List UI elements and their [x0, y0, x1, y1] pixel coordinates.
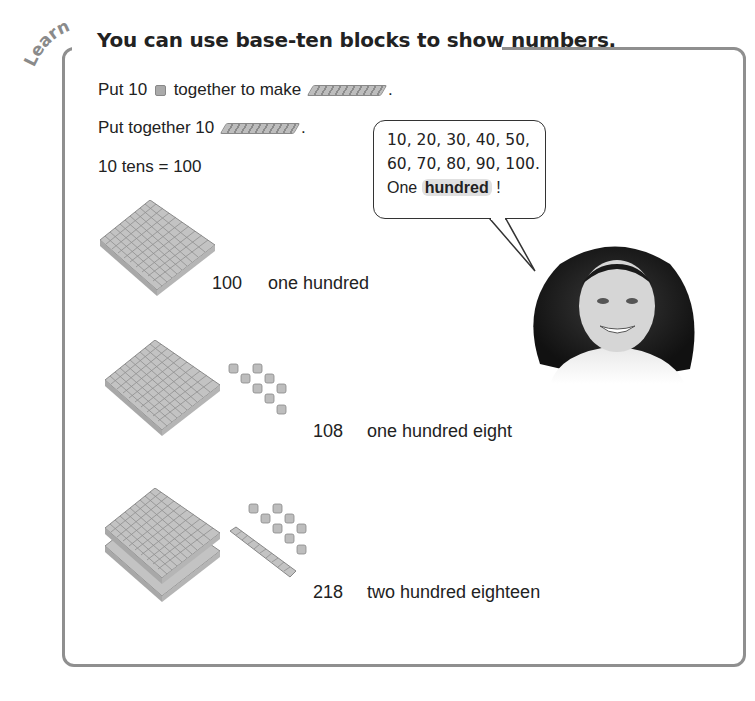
two-hundred-flats-icon	[100, 488, 230, 606]
svg-text:Learn: Learn	[22, 18, 72, 70]
lesson-title: You can use base-ten blocks to show numb…	[97, 28, 616, 52]
bubble-word: !	[496, 179, 500, 196]
example-words: two hundred eighteen	[367, 582, 540, 603]
example-number: 100	[212, 273, 242, 294]
period: .	[301, 118, 306, 137]
hundred-flat-icon	[100, 340, 230, 440]
unit-cube-icon	[155, 85, 166, 96]
example-number: 218	[313, 582, 343, 603]
learn-tag: Learn	[22, 18, 102, 78]
unit-cubes-icon	[225, 360, 300, 420]
line-text: Put 10	[98, 80, 147, 99]
line-text: together to make	[174, 80, 302, 99]
example-words: one hundred eight	[367, 421, 512, 442]
example-words: one hundred	[268, 273, 369, 294]
line-text: Put together 10	[98, 118, 214, 137]
ten-rod-icon	[220, 123, 300, 134]
bubble-text: 10, 20, 30, 40, 50, 60, 70, 80, 90, 100.…	[387, 128, 540, 200]
ten-rod-icon	[307, 85, 387, 96]
bubble-word: One	[387, 179, 417, 196]
bubble-line: 60, 70, 80, 90, 100.	[387, 152, 540, 176]
bubble-line: 10, 20, 30, 40, 50,	[387, 128, 540, 152]
line-tens: Put together 10 .	[98, 118, 306, 138]
bubble-line: One hundred !	[387, 176, 540, 200]
girl-photo	[520, 234, 710, 384]
example-number: 108	[313, 421, 343, 442]
unit-cubes-icon	[245, 500, 320, 560]
highlighted-word: hundred	[422, 179, 492, 196]
line-units: Put 10 together to make .	[98, 80, 393, 100]
hundred-flat-icon	[95, 200, 225, 300]
line-equation: 10 tens = 100	[98, 157, 202, 177]
period: .	[388, 80, 393, 99]
